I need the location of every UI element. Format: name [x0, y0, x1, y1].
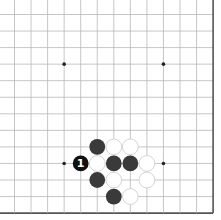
- white-stone[interactable]: [139, 156, 155, 172]
- stones-layer: 1: [73, 139, 155, 204]
- white-stone[interactable]: [106, 172, 122, 188]
- star-point-icon: [62, 162, 66, 166]
- black-stone[interactable]: [122, 156, 138, 172]
- star-point-icon: [162, 162, 166, 166]
- go-board[interactable]: 1: [0, 0, 221, 220]
- black-stone[interactable]: [89, 172, 105, 188]
- black-stone[interactable]: [106, 189, 122, 205]
- star-point-icon: [162, 62, 166, 66]
- white-stone[interactable]: [89, 156, 105, 172]
- white-stone[interactable]: [106, 139, 122, 155]
- white-stone[interactable]: [122, 139, 138, 155]
- star-point-icon: [62, 62, 66, 66]
- move-number-label: 1: [77, 157, 85, 170]
- black-stone[interactable]: [89, 139, 105, 155]
- black-stone[interactable]: 1: [73, 156, 89, 172]
- white-stone[interactable]: [122, 189, 138, 205]
- white-stone[interactable]: [139, 172, 155, 188]
- black-stone[interactable]: [106, 156, 122, 172]
